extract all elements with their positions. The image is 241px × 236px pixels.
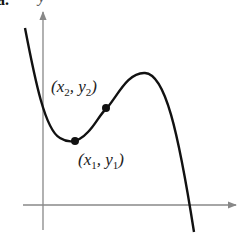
curve — [25, 28, 194, 232]
point-x2-y2 — [102, 104, 110, 112]
label-point-2: (x2, y2) — [51, 77, 97, 98]
cubic-graph — [0, 0, 241, 236]
label-point-1: (x1, y1) — [78, 150, 124, 171]
point-x1-y1 — [71, 137, 79, 145]
